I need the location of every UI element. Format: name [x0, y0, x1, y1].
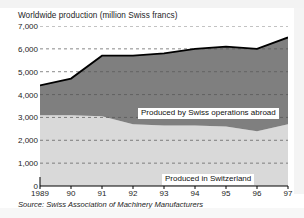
chart-title: Worldwide production (million Swiss fran… [18, 11, 177, 20]
x-axis-tick: 1989 [31, 189, 49, 198]
x-axis-tick: 96 [253, 189, 262, 198]
series-label-abroad: Produced by Swiss operations abroad [138, 108, 279, 119]
series-label-domestic: Produced in Switzerland [162, 174, 254, 185]
x-axis-tick: 94 [191, 189, 200, 198]
y-axis-tick: 5,000 [0, 67, 38, 76]
y-axis: 01,0002,0003,0004,0005,0006,0007,000 [0, 26, 38, 186]
x-axis-tick: 93 [160, 189, 169, 198]
scan-artifact-bottom [0, 208, 304, 218]
y-axis-tick: 1,000 [0, 159, 38, 168]
y-axis-tick: 6,000 [0, 44, 38, 53]
plot-area [40, 26, 288, 186]
x-axis-tick: 92 [129, 189, 138, 198]
x-axis-tick: 91 [98, 189, 107, 198]
scan-artifact-right [294, 8, 304, 194]
y-axis-tick: 2,000 [0, 136, 38, 145]
y-axis-tick: 3,000 [0, 113, 38, 122]
plot-wrapper: Produced by Swiss operations abroad Prod… [40, 26, 288, 186]
y-axis-tick: 7,000 [0, 22, 38, 31]
x-axis-tick: 90 [67, 189, 76, 198]
area-chart: Worldwide production (million Swiss fran… [0, 0, 304, 218]
x-axis-tick: 95 [222, 189, 231, 198]
y-axis-tick: 4,000 [0, 90, 38, 99]
x-axis-tick: 97 [284, 189, 293, 198]
